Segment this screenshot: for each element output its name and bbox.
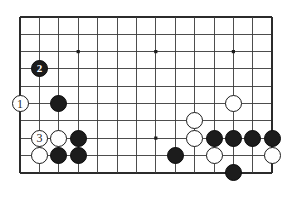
stone-move-number: 2 (37, 63, 43, 74)
stone-black (167, 147, 184, 164)
stone-white (206, 147, 223, 164)
stone-black (264, 130, 281, 147)
stone-move-number: 3 (36, 132, 42, 144)
stone-black (70, 147, 87, 164)
stone-black (244, 130, 261, 147)
stone-move-number: 1 (17, 98, 23, 110)
stone-white (31, 147, 48, 164)
stone-white (50, 130, 67, 147)
stone-black (206, 130, 223, 147)
stone-black (70, 130, 87, 147)
stone-black (225, 164, 242, 181)
stone-white (225, 95, 242, 112)
stone-move-1: 1 (12, 95, 29, 112)
go-board-diagram: 123 (0, 0, 298, 202)
stone-white (264, 147, 281, 164)
stone-black (225, 130, 242, 147)
stone-white (186, 130, 203, 147)
stone-move-3: 3 (31, 130, 48, 147)
go-board-grid (0, 0, 298, 202)
